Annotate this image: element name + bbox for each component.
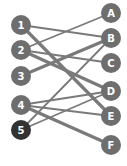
node-label: E <box>108 111 115 122</box>
node-1: 1 <box>11 15 31 35</box>
node-5: 5 <box>11 120 31 140</box>
nodes-layer: 12345ABCDEF <box>11 3 121 155</box>
edges-layer <box>21 13 111 145</box>
node-F: F <box>101 135 121 155</box>
node-label: B <box>107 33 115 44</box>
node-label: D <box>107 86 115 97</box>
node-4: 4 <box>11 95 31 115</box>
graph-svg: 12345ABCDEF <box>0 0 127 166</box>
node-2: 2 <box>11 40 31 60</box>
node-label: 5 <box>18 125 25 136</box>
node-D: D <box>101 81 121 101</box>
node-label: A <box>107 8 115 19</box>
node-E: E <box>101 106 121 126</box>
node-label: 3 <box>18 71 25 82</box>
node-label: F <box>108 140 115 151</box>
bipartite-graph: 12345ABCDEF <box>0 0 127 166</box>
node-label: 4 <box>18 100 25 111</box>
node-3: 3 <box>11 66 31 86</box>
node-label: 2 <box>18 45 25 56</box>
node-C: C <box>101 53 121 73</box>
node-label: C <box>107 58 114 69</box>
node-A: A <box>101 3 121 23</box>
node-label: 1 <box>18 20 25 31</box>
node-B: B <box>101 28 121 48</box>
